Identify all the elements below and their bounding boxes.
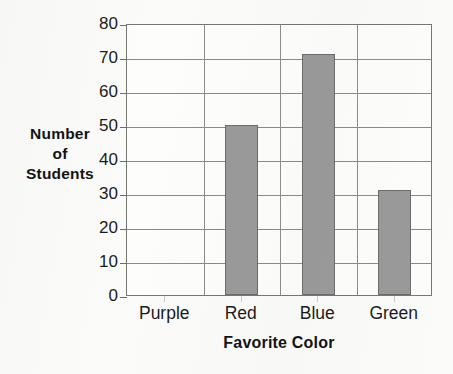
y-axis-tick: [120, 195, 127, 196]
y-axis-tick: [120, 127, 127, 128]
y-axis-tick-label: 30: [80, 185, 118, 202]
y-axis-tick-label: 0: [80, 287, 118, 304]
bar-red: [225, 125, 258, 295]
x-axis-tick: [394, 296, 395, 302]
gridline-horizontal: [127, 59, 431, 60]
bar-chart-figure: Number of Students 80706050403020100 Pur…: [0, 0, 453, 374]
y-axis-tick: [120, 59, 127, 60]
gridline-vertical: [204, 25, 205, 295]
y-axis-tick-label: 80: [80, 15, 118, 32]
y-axis-tick-label: 40: [80, 151, 118, 168]
x-axis-tick: [164, 296, 165, 302]
y-axis-tick: [120, 297, 127, 298]
x-axis-tick-label: Blue: [279, 303, 356, 324]
y-axis-tick: [120, 229, 127, 230]
y-axis-tick-label: 50: [80, 117, 118, 134]
y-axis-tick: [120, 93, 127, 94]
y-axis-tick-labels: 80706050403020100: [78, 24, 118, 296]
y-axis-tick: [120, 25, 127, 26]
x-axis-tick-label: Red: [203, 303, 280, 324]
gridline-horizontal: [127, 127, 431, 128]
x-axis-tick-label: Green: [356, 303, 433, 324]
x-axis-tick-labels: PurpleRedBlueGreen: [126, 303, 432, 331]
bar-blue: [302, 54, 335, 295]
gridline-vertical: [357, 25, 358, 295]
gridline-horizontal: [127, 93, 431, 94]
x-axis-tick: [241, 296, 242, 302]
x-axis-tick: [317, 296, 318, 302]
x-axis-tick-label: Purple: [126, 303, 203, 324]
y-axis-tick-label: 10: [80, 253, 118, 270]
gridline-vertical: [280, 25, 281, 295]
y-axis-tick-label: 20: [80, 219, 118, 236]
x-axis-title: Favorite Color: [126, 334, 432, 352]
plot-area: [126, 24, 432, 296]
gridline-horizontal: [127, 161, 431, 162]
y-axis-tick-label: 60: [80, 83, 118, 100]
y-axis-tick: [120, 263, 127, 264]
y-axis-tick: [120, 161, 127, 162]
bar-green: [378, 190, 411, 295]
y-axis-tick-label: 70: [80, 49, 118, 66]
